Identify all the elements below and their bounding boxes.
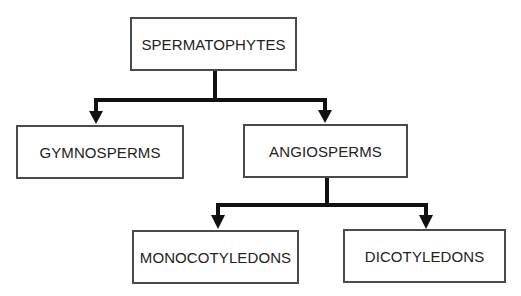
node-label: GYMNOSPERMS bbox=[39, 144, 160, 161]
node-label: SPERMATOPHYTES bbox=[141, 36, 285, 53]
node-monocotyledons: MONOCOTYLEDONS bbox=[132, 230, 299, 284]
node-label: MONOCOTYLEDONS bbox=[140, 249, 291, 266]
arrow-down-icon bbox=[318, 110, 332, 123]
node-angiosperms: ANGIOSPERMS bbox=[243, 124, 408, 178]
node-label: DICOTYLEDONS bbox=[365, 248, 485, 265]
node-spermatophytes: SPERMATOPHYTES bbox=[130, 17, 297, 71]
node-dicotyledons: DICOTYLEDONS bbox=[343, 229, 506, 283]
node-gymnosperms: GYMNOSPERMS bbox=[16, 125, 184, 179]
arrow-down-icon bbox=[211, 215, 225, 229]
arrow-down-icon bbox=[89, 111, 103, 124]
arrow-down-icon bbox=[419, 215, 433, 229]
node-label: ANGIOSPERMS bbox=[269, 143, 382, 160]
